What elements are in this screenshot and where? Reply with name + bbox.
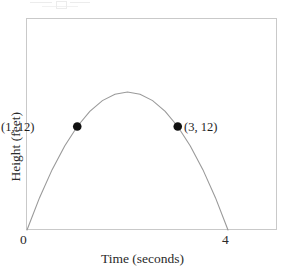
x-axis-title: Time (seconds) [0,252,285,266]
parabola-curve [27,92,228,230]
x-tick-label-0: 0 [20,233,27,247]
figure-container: Height (feet) Time (seconds) 0 4 (1, 12)… [0,0,285,276]
data-point-marker-right [173,122,182,131]
y-axis-title: Height (feet) [9,87,23,207]
plot-svg [0,0,285,276]
data-point-marker-left [73,122,82,131]
x-tick-label-4: 4 [222,233,229,247]
point-label-right: (3, 12) [184,121,217,134]
point-label-left: (1, 12) [1,121,34,134]
